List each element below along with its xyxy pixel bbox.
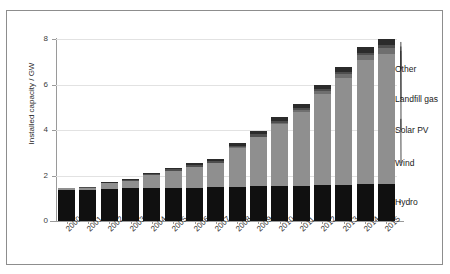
y-tick-label-6: 6 bbox=[28, 80, 48, 89]
bar-segment-wind bbox=[229, 148, 246, 187]
bar-2012[interactable] bbox=[314, 85, 331, 221]
y-tick-label-2: 2 bbox=[28, 171, 48, 180]
y-axis-title: Installed capacity / GW bbox=[27, 34, 36, 174]
bar-2002[interactable] bbox=[101, 182, 118, 221]
bar-segment-wind bbox=[335, 78, 352, 184]
bar-2010[interactable] bbox=[271, 117, 288, 221]
callout-label-wind: Wind bbox=[395, 158, 414, 168]
bar-segment-wind bbox=[143, 175, 160, 188]
bar-2005[interactable] bbox=[165, 168, 182, 221]
bar-segment-hydro bbox=[122, 188, 139, 221]
bar-2007[interactable] bbox=[207, 159, 224, 221]
y-tick-label-0: 0 bbox=[28, 216, 48, 225]
bar-segment-hydro bbox=[229, 187, 246, 221]
bar-segment-wind bbox=[207, 163, 224, 188]
bar-segment-wind bbox=[293, 112, 310, 185]
bar-segment-wind bbox=[357, 60, 374, 184]
bar-segment-wind bbox=[378, 54, 395, 184]
bar-2011[interactable] bbox=[293, 104, 310, 221]
bar-segment-wind bbox=[122, 181, 139, 189]
y-tick-mark-0 bbox=[52, 221, 56, 222]
bar-2013[interactable] bbox=[335, 67, 352, 221]
bar-segment-hydro bbox=[58, 190, 75, 221]
bar-segment-hydro bbox=[314, 185, 331, 221]
bar-segment-hydro bbox=[250, 186, 267, 221]
bar-2006[interactable] bbox=[186, 163, 203, 221]
bar-series-container bbox=[56, 39, 397, 221]
bar-2001[interactable] bbox=[79, 187, 96, 221]
bar-2008[interactable] bbox=[229, 143, 246, 221]
bar-2000[interactable] bbox=[58, 188, 75, 221]
bar-2003[interactable] bbox=[122, 179, 139, 221]
bar-segment-wind bbox=[314, 94, 331, 185]
bar-segment-wind bbox=[165, 171, 182, 188]
bar-segment-hydro bbox=[357, 184, 374, 221]
bar-segment-hydro bbox=[186, 188, 203, 221]
chart-frame: Installed capacity / GW 02468 2000200120… bbox=[6, 10, 443, 265]
plot-area bbox=[56, 39, 397, 221]
bar-segment-hydro bbox=[101, 189, 118, 221]
callout-label-hydro: Hydro bbox=[395, 197, 418, 207]
bar-segment-hydro bbox=[378, 184, 395, 221]
bar-2015[interactable] bbox=[378, 39, 395, 221]
bar-segment-hydro bbox=[165, 188, 182, 221]
bar-segment-other bbox=[378, 39, 395, 46]
bar-segment-hydro bbox=[79, 190, 96, 221]
bar-segment-hydro bbox=[271, 186, 288, 221]
y-tick-label-4: 4 bbox=[28, 125, 48, 134]
callout-label-solar-pv: Solar PV bbox=[395, 125, 429, 135]
callout-label-other: Other bbox=[395, 64, 416, 74]
bar-segment-wind bbox=[186, 167, 203, 188]
bar-segment-wind bbox=[250, 137, 267, 186]
bar-segment-hydro bbox=[143, 188, 160, 221]
callout-label-landfill-gas: Landfill gas bbox=[395, 94, 438, 104]
bar-segment-wind bbox=[271, 124, 288, 186]
bar-segment-hydro bbox=[207, 187, 224, 221]
bar-2014[interactable] bbox=[357, 47, 374, 221]
y-tick-label-8: 8 bbox=[28, 34, 48, 43]
bar-segment-hydro bbox=[335, 185, 352, 221]
bar-2004[interactable] bbox=[143, 173, 160, 221]
bar-2009[interactable] bbox=[250, 131, 267, 221]
bar-segment-hydro bbox=[293, 186, 310, 221]
